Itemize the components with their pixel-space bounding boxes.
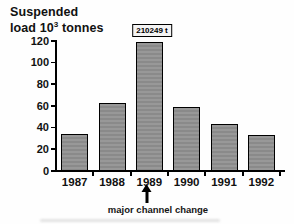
value-callout-1989: 210249 t: [132, 24, 172, 37]
y-axis-tick-label: 40: [17, 121, 49, 133]
chart-title: Suspended load 103 tonnes: [10, 5, 104, 35]
x-axis-label-1992: 1992: [242, 176, 280, 188]
x-axis-line: [55, 170, 285, 172]
bar-1990: [173, 107, 200, 171]
y-axis-tick-label: 0: [17, 165, 49, 177]
bar-1989: [136, 42, 163, 171]
chart-title-line1: Suspended: [10, 5, 78, 19]
event-annotation-label: major channel change: [108, 204, 208, 215]
y-axis-line: [55, 40, 57, 172]
x-axis-label-1991: 1991: [205, 176, 243, 188]
y-axis-tick-label: 60: [17, 100, 49, 112]
y-axis-tick-label: 80: [17, 78, 49, 90]
bar-chart-figure: Suspended load 103 tonnes 02040608010012…: [0, 0, 294, 224]
bar-1991: [211, 124, 238, 171]
bar-1988: [99, 103, 126, 171]
y-axis-tick-label: 100: [17, 56, 49, 68]
chart-title-line2: load 103 tonnes: [10, 21, 104, 35]
x-axis-label-1990: 1990: [168, 176, 206, 188]
up-arrow-icon: [142, 184, 153, 203]
y-axis-tick-label: 20: [17, 143, 49, 155]
bar-1992: [248, 135, 275, 171]
y-axis-tick-label: 120: [17, 35, 49, 47]
bar-1987: [61, 134, 88, 171]
scan-artifact: [40, 219, 220, 222]
x-axis-label-1988: 1988: [93, 176, 131, 188]
arrow-stem: [145, 191, 149, 203]
x-axis-label-1987: 1987: [56, 176, 94, 188]
